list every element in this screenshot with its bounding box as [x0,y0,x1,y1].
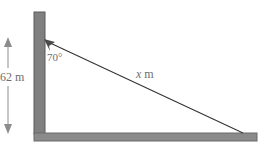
arrow-up-icon [4,37,12,47]
vertical-wall [34,12,45,134]
hypotenuse-unit: m [141,67,154,81]
arrow-down-icon [4,124,12,134]
height-label: 62 m [0,70,25,84]
hypotenuse-label: x m [135,67,154,81]
angle-label: 70° [47,51,62,63]
ground-bar [34,133,257,141]
triangle-diagram: 62 m 70° x m [0,0,269,153]
height-dimension-arrow [4,37,12,134]
hypotenuse-line [48,42,243,133]
